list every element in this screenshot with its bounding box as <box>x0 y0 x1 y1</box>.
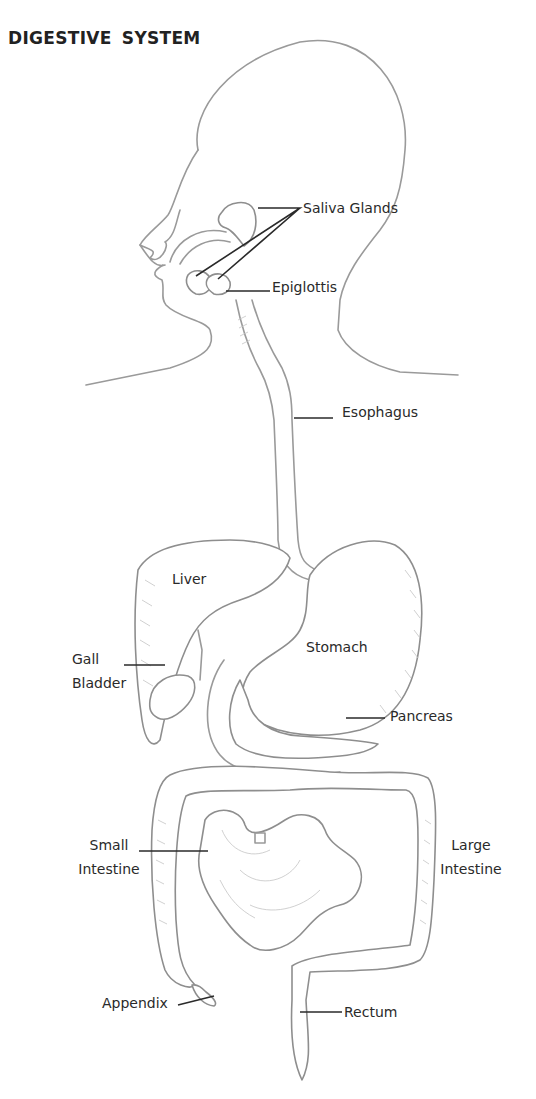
label-pancreas: Pancreas <box>390 705 453 727</box>
label-esophagus: Esophagus <box>342 401 418 423</box>
label-saliva-glands: Saliva Glands <box>303 197 398 219</box>
label-small-intestine-line2: Intestine <box>74 858 144 880</box>
small-intestine <box>199 810 362 950</box>
label-rectum: Rectum <box>344 1001 397 1023</box>
label-epiglottis: Epiglottis <box>272 276 337 298</box>
label-small-intestine-line1: Small <box>74 834 144 856</box>
appendix <box>192 985 216 1006</box>
label-liver: Liver <box>172 568 206 590</box>
label-stomach: Stomach <box>306 636 368 658</box>
label-gall-bladder-line2: Bladder <box>72 672 126 694</box>
label-large-intestine-line2: Intestine <box>436 858 506 880</box>
digestive-system-illustration <box>0 0 536 1099</box>
human-head-outline <box>86 40 458 385</box>
label-appendix: Appendix <box>102 992 168 1014</box>
saliva-glands <box>186 203 255 295</box>
label-large-intestine-line1: Large <box>436 834 506 856</box>
esophagus <box>236 300 320 580</box>
label-gall-bladder-line1: Gall <box>72 648 99 670</box>
